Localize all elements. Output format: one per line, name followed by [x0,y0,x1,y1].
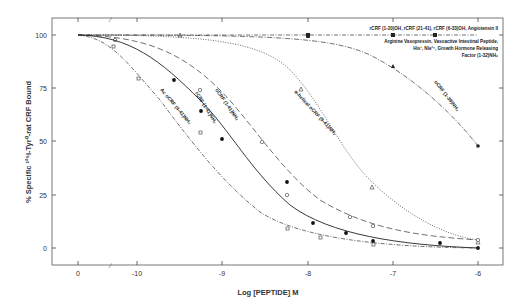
x-tick-0: 0 [76,270,80,277]
y-tick-50: 50 [39,138,47,145]
series-ocrf-1-39 [78,34,480,148]
annot-inactive-1: rCRF (1-20)OH, rCRF (21-41), rCRF (6-33)… [370,26,498,31]
annot-inactive-2: Arginine Vasopressin, Vasoactive Intesti… [384,39,498,44]
svg-text:∕: ∕ [108,16,113,23]
x-tick-neg6: -6 [475,270,481,277]
x-axis-label: Log [PEPTIDE] M [237,288,298,297]
annotations: rCRF (1-20)OH, rCRF (21-41), rCRF (6-33)… [159,26,498,136]
svg-text:∕: ∕ [108,262,113,269]
y-tick-25: 25 [39,192,47,199]
y-tick-75: 75 [39,85,47,92]
annot-inactive-4: Factor (1-32)NH₂ [462,53,498,58]
x-tick-neg10: -10 [132,270,142,277]
series-rcrf-1-41 [78,35,480,250]
plot-frame [52,18,503,265]
annot-inactive-3: His¹, Nle²⁷, Growth Hormone Releasing [413,46,498,51]
label-rcrf-1-41: rCRF (1-41)NH₂ [194,90,218,124]
y-tick-0: 0 [43,245,47,252]
y-tick-100: 100 [35,32,47,39]
x-axis: ∕ ∕ 0 -10 -9 -8 -7 -6 Log [PEPTIDE] M [76,16,481,297]
x-tick-neg8: -8 [305,270,311,277]
series-inactive-peptides [78,33,478,37]
series-ac-ocrf-4-41 [78,35,478,248]
series-alpha-helical [78,33,480,244]
y-axis-label: % Specific ¹²⁵I-Tyr⁰-rat CRF Bound [24,80,33,203]
label-ocrf-1-41: oCRF (1-41)NH₂ [214,87,240,121]
label-alpha-helical: α-helical oCRF (9-41)NH₂ [293,89,338,136]
x-tick-neg7: -7 [390,270,396,277]
x-tick-neg9: -9 [219,270,225,277]
series-ocrf-1-41 [78,35,480,242]
label-ocrf-1-39: oCRF (1-39)NH₂ [433,79,461,112]
competition-binding-chart: 100 75 50 25 0 % Specific ¹²⁵I-Tyr⁰-rat … [0,0,532,304]
